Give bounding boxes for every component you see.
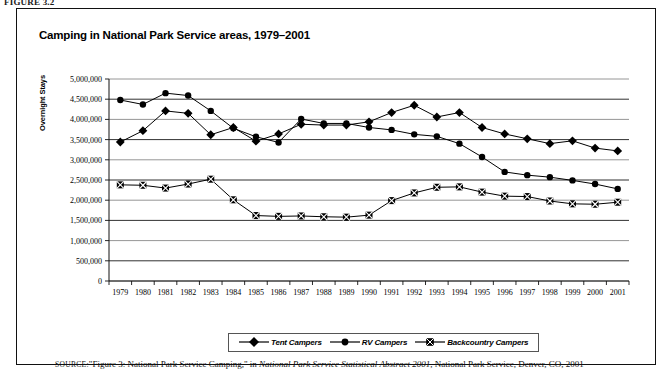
legend-label-rv: RV Campers bbox=[362, 338, 408, 347]
svg-text:1984: 1984 bbox=[225, 288, 241, 297]
crossed-square-marker-icon bbox=[415, 334, 445, 352]
svg-text:1980: 1980 bbox=[135, 288, 151, 297]
legend-item-rv[interactable]: RV Campers bbox=[330, 334, 408, 352]
svg-text:1981: 1981 bbox=[158, 288, 174, 297]
svg-text:1996: 1996 bbox=[497, 288, 513, 297]
svg-text:1991: 1991 bbox=[384, 288, 400, 297]
legend-item-tent[interactable]: Tent Campers bbox=[239, 334, 322, 352]
source-text-2: , National Park Service, Denver, CO, 200… bbox=[430, 359, 584, 369]
legend-label-backcountry: Backcountry Campers bbox=[447, 338, 528, 347]
svg-text:1997: 1997 bbox=[519, 288, 535, 297]
diamond-marker-icon bbox=[239, 334, 269, 352]
figure-page: FIGURE 3.2 Camping in National Park Serv… bbox=[0, 0, 671, 379]
legend-label-tent: Tent Campers bbox=[271, 338, 322, 347]
svg-text:3,500,000: 3,500,000 bbox=[70, 136, 102, 145]
svg-text:1989: 1989 bbox=[338, 288, 354, 297]
svg-text:5,000,000: 5,000,000 bbox=[70, 75, 102, 84]
svg-text:1983: 1983 bbox=[203, 288, 219, 297]
svg-text:1,000,000: 1,000,000 bbox=[70, 237, 102, 246]
svg-text:1999: 1999 bbox=[564, 288, 580, 297]
svg-text:1,500,000: 1,500,000 bbox=[70, 216, 102, 225]
svg-text:2001: 2001 bbox=[610, 288, 626, 297]
svg-text:1987: 1987 bbox=[293, 288, 309, 297]
line-chart: 0500,0001,000,0001,500,0002,000,0002,500… bbox=[39, 61, 639, 313]
svg-text:1990: 1990 bbox=[361, 288, 377, 297]
svg-text:1995: 1995 bbox=[474, 288, 490, 297]
svg-text:2,000,000: 2,000,000 bbox=[70, 196, 102, 205]
svg-text:0: 0 bbox=[98, 277, 102, 286]
svg-text:1982: 1982 bbox=[180, 288, 196, 297]
svg-text:2,500,000: 2,500,000 bbox=[70, 176, 102, 185]
figure-box: Camping in National Park Service areas, … bbox=[16, 8, 656, 365]
svg-text:1988: 1988 bbox=[316, 288, 332, 297]
svg-text:1993: 1993 bbox=[429, 288, 445, 297]
svg-text:3,000,000: 3,000,000 bbox=[70, 156, 102, 165]
source-text-1: "Figure 3: National Park Service Camping… bbox=[89, 359, 259, 369]
svg-text:1994: 1994 bbox=[451, 288, 467, 297]
svg-text:1998: 1998 bbox=[542, 288, 558, 297]
plot-area: Overnight Stays 0500,0001,000,0001,500,0… bbox=[39, 61, 639, 313]
svg-text:500,000: 500,000 bbox=[76, 257, 102, 266]
figure-number: FIGURE 3.2 bbox=[4, 0, 55, 7]
svg-text:1992: 1992 bbox=[406, 288, 422, 297]
chart-title: Camping in National Park Service areas, … bbox=[39, 29, 310, 41]
svg-text:4,000,000: 4,000,000 bbox=[70, 115, 102, 124]
source-italic-1: National Park Service Statistical Abstra… bbox=[259, 359, 430, 369]
svg-text:1986: 1986 bbox=[271, 288, 287, 297]
svg-text:2000: 2000 bbox=[587, 288, 603, 297]
legend-item-backcountry[interactable]: Backcountry Campers bbox=[415, 334, 528, 352]
chart-legend: Tent Campers RV Campers bbox=[228, 333, 539, 352]
svg-text:1985: 1985 bbox=[248, 288, 264, 297]
source-note: SOURCE:"Figure 3: National Park Service … bbox=[55, 359, 584, 369]
svg-text:1979: 1979 bbox=[112, 288, 128, 297]
source-prefix: SOURCE: bbox=[55, 360, 89, 369]
svg-text:4,500,000: 4,500,000 bbox=[70, 95, 102, 104]
circle-marker-icon bbox=[330, 334, 360, 352]
